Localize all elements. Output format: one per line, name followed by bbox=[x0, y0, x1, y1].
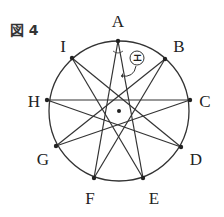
angle-arc bbox=[113, 51, 123, 53]
vertex-E bbox=[141, 176, 145, 180]
vertex-B bbox=[163, 57, 167, 61]
arrow-head-icon bbox=[121, 73, 123, 78]
label-I: I bbox=[60, 37, 66, 56]
label-C: C bbox=[199, 92, 210, 111]
vertex-H bbox=[45, 98, 49, 102]
vertex-D bbox=[179, 145, 183, 149]
chord-G-B bbox=[56, 59, 165, 146]
label-A: A bbox=[112, 12, 125, 31]
label-G: G bbox=[37, 150, 49, 169]
vertex-C bbox=[188, 98, 192, 102]
angle-label: エ bbox=[133, 53, 142, 63]
vertex-A bbox=[116, 39, 120, 43]
vertex-F bbox=[92, 176, 96, 180]
chord-C-G bbox=[56, 100, 190, 146]
label-D: D bbox=[190, 150, 202, 169]
label-F: F bbox=[85, 189, 94, 208]
center-dot bbox=[117, 109, 121, 113]
label-B: B bbox=[173, 37, 184, 56]
chord-D-H bbox=[47, 100, 181, 147]
label-H: H bbox=[28, 92, 40, 111]
angle-mark: エ bbox=[113, 51, 144, 78]
label-E: E bbox=[149, 189, 159, 208]
vertex-G bbox=[54, 144, 58, 148]
chord-I-D bbox=[72, 58, 181, 147]
vertex-I bbox=[70, 56, 74, 60]
star-diagram: ABCDEFGHI エ bbox=[0, 0, 224, 217]
